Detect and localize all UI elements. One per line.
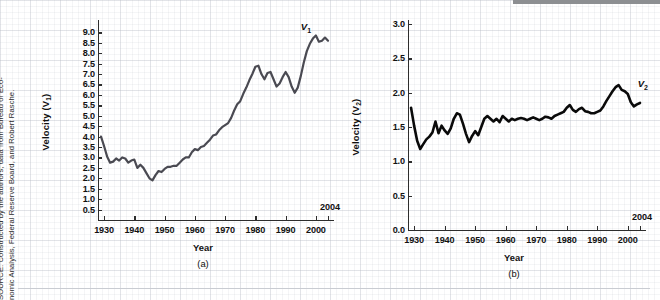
series-plot xyxy=(350,0,660,300)
chart-panel-a: 0.51.01.52.02.53.03.54.04.55.05.56.06.57… xyxy=(40,0,350,300)
chart-panel-b: 0.00.51.01.52.02.53.01930194019501960197… xyxy=(350,0,660,300)
series-label-text: V2 xyxy=(638,78,648,89)
series-label-text: V1 xyxy=(301,21,311,32)
series-label: V1 xyxy=(301,21,311,34)
source-note-line-2: nomic Analysis, Federal Reserve Board, a… xyxy=(7,0,18,300)
series-plot xyxy=(40,0,350,300)
series-line xyxy=(411,85,640,149)
series-line xyxy=(101,35,328,180)
series-label: V2 xyxy=(638,78,648,91)
source-note: SOURCE: Constructed by the authors; data… xyxy=(0,0,20,300)
